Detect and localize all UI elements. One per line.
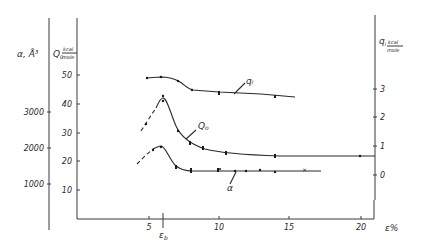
alpha-axis-label: α, Å³ xyxy=(17,48,39,59)
qi-tick-2: 2 xyxy=(380,113,385,122)
qi-axis-label: qi kcal mole xyxy=(379,36,403,53)
chart-figure: 3000 2000 1000 50 40 30 20 10 3 2 1 0 5 … xyxy=(0,0,422,251)
series-q0: Qo xyxy=(141,95,375,158)
x-axis-ticks: 5 10 15 20 εb xyxy=(146,213,366,241)
alpha-tick-2000: 2000 xyxy=(24,144,44,153)
svg-text:×: × xyxy=(302,166,307,173)
label-q0: Qo xyxy=(198,121,209,131)
x-axis-label: ε% xyxy=(385,223,398,233)
svg-text:mole: mole xyxy=(387,47,399,53)
x-tick-5: 5 xyxy=(146,223,151,232)
q0-tick-30: 30 xyxy=(62,129,72,138)
series-qi: qᵢ xyxy=(146,76,295,98)
x-tick-15: 15 xyxy=(284,223,294,232)
q0-tick-50: 50 xyxy=(62,71,72,80)
q0-axis-label: Q0 kcal mole xyxy=(53,46,77,60)
label-qi: qᵢ xyxy=(246,76,254,86)
alpha-tick-3000: 3000 xyxy=(24,108,44,117)
label-alpha: α xyxy=(227,183,233,193)
x-tick-20: 20 xyxy=(356,223,366,232)
alpha-tick-1000: 1000 xyxy=(24,180,44,189)
q0-tick-10: 10 xyxy=(62,186,72,195)
qi-tick-0: 0 xyxy=(380,171,385,180)
qi-tick-3: 3 xyxy=(380,85,385,94)
qi-tick-1: 1 xyxy=(380,142,385,151)
q0-tick-20: 20 xyxy=(62,157,72,166)
x-special-tick-epsilon-b: εb xyxy=(159,230,168,241)
svg-text:kcal: kcal xyxy=(63,46,74,52)
svg-text:kcal: kcal xyxy=(388,39,399,45)
q0-tick-40: 40 xyxy=(62,100,72,109)
axes xyxy=(49,15,375,230)
svg-text:mole: mole xyxy=(62,54,74,60)
alpha-axis-ticks: 3000 2000 1000 xyxy=(24,108,51,189)
svg-text:qi: qi xyxy=(379,36,387,47)
x-tick-10: 10 xyxy=(214,223,224,232)
